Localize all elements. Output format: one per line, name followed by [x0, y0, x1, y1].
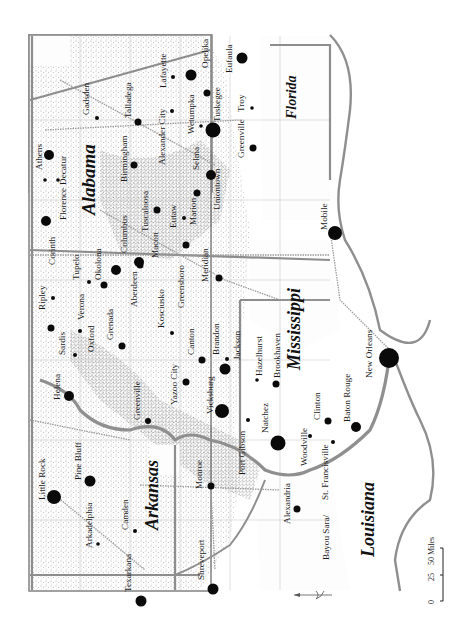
city-dot-alexander-city	[170, 109, 174, 113]
city-label: Clinton	[312, 392, 322, 420]
city-label: Selma	[191, 147, 201, 170]
state-label-louisiana: Louisiana	[358, 482, 378, 558]
city-dot-ripley	[51, 296, 55, 300]
city-label: Camden	[120, 499, 130, 530]
city-dot-grenada	[119, 343, 126, 350]
city-dot-brandon	[225, 357, 229, 361]
city-label: Alexander City	[157, 108, 167, 165]
gulf-of-mexico	[330, 35, 430, 591]
city-dot-new-orleans	[379, 348, 399, 368]
city-label: Ripley	[37, 285, 47, 310]
city-label: Texarkana	[123, 554, 133, 592]
city-label: Athens	[34, 144, 44, 170]
city-label: Aberdeen	[129, 271, 139, 307]
city-dot-vicksburg	[215, 404, 229, 418]
city-dot-yazoo-city	[183, 379, 190, 386]
city-label: Oxford	[86, 325, 96, 352]
city-label: Greensboro	[176, 265, 186, 308]
city-label: Decatur	[58, 156, 68, 185]
city-dot-greenville-ms	[145, 418, 151, 424]
city-dot-wetumpka	[199, 124, 203, 128]
scale-tick-50: 50 Miles	[427, 537, 436, 565]
city-label: New Orleans	[364, 329, 374, 378]
city-label: Talladega	[123, 82, 133, 118]
city-label: Little Rock	[37, 458, 47, 500]
city-label: Tuskegee	[212, 87, 222, 122]
city-label: Troy	[236, 94, 246, 112]
city-label: Birmingham	[119, 136, 129, 182]
state-label-alabama: Alabama	[78, 144, 99, 216]
city-label: Gadsden	[81, 82, 91, 115]
city-dot-meridian	[216, 275, 223, 282]
city-dot-birmingham	[131, 162, 138, 169]
city-label: Jackson	[232, 331, 242, 360]
city-dot-oxford	[73, 353, 77, 357]
city-dot-greensboro	[183, 242, 190, 249]
city-label: Meridian	[200, 248, 210, 282]
city-dot-mobile	[328, 226, 342, 240]
city-label: Mobile	[319, 203, 329, 230]
city-dot-tupelo	[87, 280, 91, 284]
city-dot-okolona	[101, 282, 108, 289]
city-dot-talladega	[135, 119, 142, 126]
city-label: Okolona	[93, 248, 103, 280]
city-label: St. Francisville	[320, 444, 330, 500]
city-label: Yazoo City	[169, 363, 179, 405]
city-label: Greenville	[132, 381, 142, 420]
city-label: Verona	[76, 294, 86, 320]
city-dot-athens	[44, 150, 54, 160]
city-label: Natchez	[260, 403, 270, 433]
city-label: Brandon	[211, 323, 221, 355]
city-dot-hazelhurst	[255, 378, 259, 382]
city-label: Arkadelphia	[84, 503, 94, 548]
city-dot-eufaula	[237, 53, 248, 64]
city-label: Opelika	[200, 39, 210, 68]
city-dot-gadsden	[95, 116, 99, 120]
city-label: Sardis	[57, 332, 67, 355]
city-dot-st-francisville	[331, 440, 335, 444]
city-label: Alexandria	[282, 483, 292, 524]
city-label: Grenada	[105, 309, 115, 340]
city-label: Corinth	[47, 237, 57, 265]
city-dot-marion	[194, 190, 201, 197]
city-dot-clinton	[325, 418, 332, 425]
city-dot-helena	[64, 391, 74, 401]
city-dot-monroe	[208, 483, 215, 490]
city-label: Macon	[150, 232, 160, 258]
city-label: Monroe	[194, 460, 204, 489]
city-dot-greenville-al	[250, 145, 257, 152]
city-dot-columbus	[111, 265, 121, 275]
city-label: Brookhaven	[272, 333, 282, 378]
city-dot-lafayette	[171, 75, 175, 79]
city-dot-arkadelphia	[96, 542, 100, 546]
city-label: Woodville	[299, 428, 309, 466]
city-dot-baton-rouge	[351, 422, 361, 432]
city-label: Shreveport	[196, 539, 206, 580]
city-label: Tuscaloosa	[140, 191, 150, 232]
city-dot-troy	[250, 106, 254, 110]
city-dot-tuscaloosa	[154, 207, 161, 214]
city-label: Lafayette	[158, 53, 168, 88]
city-dot-florence	[43, 178, 47, 182]
city-label: Kosciusko	[156, 289, 166, 328]
city-dot-alexandria	[294, 506, 301, 513]
city-label: Wetumpka	[186, 94, 196, 134]
city-dot-shreveport	[208, 584, 219, 595]
city-label: Bayou Sara/	[321, 514, 331, 560]
city-dot-verona	[78, 329, 82, 333]
city-label: Eutaw	[168, 204, 178, 228]
city-dot-selma	[206, 123, 221, 138]
city-label: Vicksburg	[205, 376, 215, 414]
city-label: Uniontown	[212, 168, 222, 210]
city-label: Hazelhurst	[254, 336, 264, 376]
city-label: Baton Rouge	[342, 374, 352, 422]
city-label: Greenville	[236, 119, 246, 158]
scale-tick-0: 0	[427, 600, 436, 604]
city-dot-natchez	[271, 436, 286, 451]
map-main: Athens Decatur Florence Corinth Gadsden …	[0, 0, 474, 631]
state-label-mississippi: Mississippi	[284, 288, 304, 371]
city-label: Florence	[58, 188, 68, 220]
city-dot-sardis	[48, 325, 55, 332]
city-dot-eutaw	[182, 216, 186, 220]
city-dot-corinth	[41, 216, 51, 226]
